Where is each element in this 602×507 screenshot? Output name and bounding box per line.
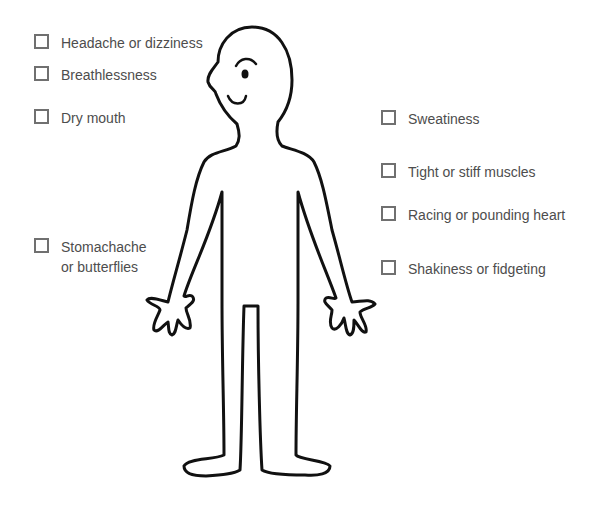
symptom-stomachache[interactable]: Stomachache or butterflies: [34, 237, 147, 277]
dry-mouth-checkbox[interactable]: [34, 109, 49, 124]
sweatiness-checkbox[interactable]: [381, 110, 396, 125]
sweatiness-label: Sweatiness: [408, 109, 480, 129]
breathlessness-label: Breathlessness: [61, 65, 157, 85]
tight-muscles-checkbox[interactable]: [381, 163, 396, 178]
symptom-dry-mouth[interactable]: Dry mouth: [34, 108, 126, 128]
racing-heart-checkbox[interactable]: [381, 206, 396, 221]
stomachache-checkbox[interactable]: [34, 238, 49, 253]
stomachache-label: Stomachache or butterflies: [61, 237, 147, 277]
symptom-shakiness[interactable]: Shakiness or fidgeting: [381, 259, 546, 279]
symptom-tight-muscles[interactable]: Tight or stiff muscles: [381, 162, 536, 182]
breathlessness-checkbox[interactable]: [34, 66, 49, 81]
symptom-headache[interactable]: Headache or dizziness: [34, 33, 203, 53]
shakiness-label: Shakiness or fidgeting: [408, 259, 546, 279]
shakiness-checkbox[interactable]: [381, 260, 396, 275]
racing-heart-label: Racing or pounding heart: [408, 205, 565, 225]
symptom-breathlessness[interactable]: Breathlessness: [34, 65, 157, 85]
symptom-sweatiness[interactable]: Sweatiness: [381, 109, 480, 129]
headache-checkbox[interactable]: [34, 34, 49, 49]
tight-muscles-label: Tight or stiff muscles: [408, 162, 536, 182]
headache-label: Headache or dizziness: [61, 33, 203, 53]
symptom-racing-heart[interactable]: Racing or pounding heart: [381, 205, 565, 225]
dry-mouth-label: Dry mouth: [61, 108, 126, 128]
